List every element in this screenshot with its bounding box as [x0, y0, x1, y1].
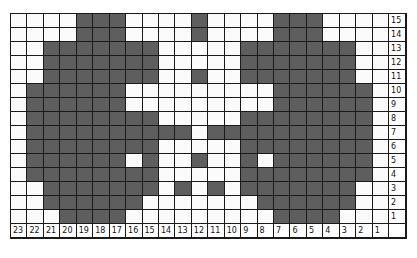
- empty-stitch-cell: [126, 98, 142, 112]
- row-number-label: 11: [389, 70, 405, 84]
- empty-stitch-cell: [143, 84, 159, 98]
- empty-stitch-cell: [44, 28, 60, 42]
- empty-stitch-cell: [225, 28, 241, 42]
- empty-stitch-cell: [225, 84, 241, 98]
- empty-stitch-cell: [208, 28, 224, 42]
- empty-stitch-cell: [241, 28, 257, 42]
- filled-stitch-cell: [307, 56, 323, 70]
- filled-stitch-cell: [44, 126, 60, 140]
- empty-stitch-cell: [175, 14, 191, 28]
- empty-stitch-cell: [11, 84, 27, 98]
- filled-stitch-cell: [93, 42, 109, 56]
- empty-stitch-cell: [225, 140, 241, 154]
- empty-stitch-cell: [225, 210, 241, 224]
- filled-stitch-cell: [323, 42, 339, 56]
- filled-stitch-cell: [307, 42, 323, 56]
- filled-stitch-cell: [274, 84, 290, 98]
- empty-stitch-cell: [258, 14, 274, 28]
- filled-stitch-cell: [77, 56, 93, 70]
- filled-stitch-cell: [44, 182, 60, 196]
- row-number-label: 4: [389, 168, 405, 182]
- filled-stitch-cell: [323, 126, 339, 140]
- empty-stitch-cell: [373, 56, 389, 70]
- empty-stitch-cell: [356, 70, 372, 84]
- empty-stitch-cell: [225, 112, 241, 126]
- filled-stitch-cell: [27, 98, 43, 112]
- filled-stitch-cell: [290, 56, 306, 70]
- filled-stitch-cell: [93, 154, 109, 168]
- filled-stitch-cell: [93, 14, 109, 28]
- filled-stitch-cell: [143, 42, 159, 56]
- filled-stitch-cell: [356, 140, 372, 154]
- column-number-label: 15: [143, 224, 159, 238]
- filled-stitch-cell: [110, 196, 126, 210]
- empty-stitch-cell: [225, 98, 241, 112]
- filled-stitch-cell: [323, 140, 339, 154]
- filled-stitch-cell: [290, 182, 306, 196]
- filled-stitch-cell: [27, 140, 43, 154]
- filled-stitch-cell: [143, 154, 159, 168]
- filled-stitch-cell: [60, 168, 76, 182]
- filled-stitch-cell: [290, 70, 306, 84]
- column-number-label: 3: [340, 224, 356, 238]
- filled-stitch-cell: [323, 56, 339, 70]
- column-number-label: 7: [274, 224, 290, 238]
- filled-stitch-cell: [274, 56, 290, 70]
- empty-stitch-cell: [175, 154, 191, 168]
- empty-stitch-cell: [126, 210, 142, 224]
- filled-stitch-cell: [290, 42, 306, 56]
- empty-stitch-cell: [11, 112, 27, 126]
- empty-stitch-cell: [356, 210, 372, 224]
- empty-stitch-cell: [225, 42, 241, 56]
- filled-stitch-cell: [175, 182, 191, 196]
- empty-stitch-cell: [208, 140, 224, 154]
- column-number-label: 9: [241, 224, 257, 238]
- empty-stitch-cell: [11, 182, 27, 196]
- empty-stitch-cell: [159, 84, 175, 98]
- empty-stitch-cell: [11, 56, 27, 70]
- filled-stitch-cell: [60, 56, 76, 70]
- filled-stitch-cell: [93, 126, 109, 140]
- empty-stitch-cell: [258, 28, 274, 42]
- empty-stitch-cell: [175, 168, 191, 182]
- filled-stitch-cell: [340, 154, 356, 168]
- filled-stitch-cell: [323, 168, 339, 182]
- filled-stitch-cell: [110, 140, 126, 154]
- empty-stitch-cell: [225, 56, 241, 70]
- empty-stitch-cell: [159, 112, 175, 126]
- column-number-label: 16: [126, 224, 142, 238]
- filled-stitch-cell: [340, 56, 356, 70]
- empty-stitch-cell: [27, 56, 43, 70]
- filled-stitch-cell: [93, 112, 109, 126]
- empty-stitch-cell: [27, 70, 43, 84]
- filled-stitch-cell: [44, 154, 60, 168]
- filled-stitch-cell: [110, 182, 126, 196]
- row-number-label: 2: [389, 196, 405, 210]
- row-number-label: 9: [389, 98, 405, 112]
- empty-stitch-cell: [11, 42, 27, 56]
- filled-stitch-cell: [77, 140, 93, 154]
- filled-stitch-cell: [77, 126, 93, 140]
- filled-stitch-cell: [143, 70, 159, 84]
- filled-stitch-cell: [274, 42, 290, 56]
- row-number-label: 10: [389, 84, 405, 98]
- filled-stitch-cell: [274, 70, 290, 84]
- filled-stitch-cell: [258, 70, 274, 84]
- column-number-label: 19: [77, 224, 93, 238]
- empty-stitch-cell: [373, 196, 389, 210]
- empty-stitch-cell: [356, 42, 372, 56]
- filled-stitch-cell: [93, 84, 109, 98]
- filled-stitch-cell: [192, 28, 208, 42]
- empty-stitch-cell: [159, 140, 175, 154]
- filled-stitch-cell: [258, 140, 274, 154]
- filled-stitch-cell: [60, 182, 76, 196]
- empty-stitch-cell: [126, 14, 142, 28]
- filled-stitch-cell: [241, 154, 257, 168]
- empty-stitch-cell: [192, 196, 208, 210]
- empty-stitch-cell: [11, 28, 27, 42]
- empty-stitch-cell: [175, 210, 191, 224]
- empty-stitch-cell: [258, 154, 274, 168]
- row-number-label: 12: [389, 56, 405, 70]
- filled-stitch-cell: [307, 196, 323, 210]
- empty-stitch-cell: [11, 98, 27, 112]
